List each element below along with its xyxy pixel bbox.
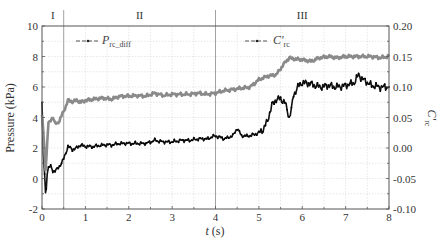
x-tick-label: 1 (83, 211, 89, 223)
y-right-tick-label: -0.05 (393, 173, 416, 185)
y-right-tick-label: -0.10 (393, 203, 416, 215)
y-right-axis-tick-labels: -0.10-0.050.000.050.100.150.20 (393, 20, 416, 215)
y-tick-label: 6 (33, 81, 39, 93)
y-tick-label: 0 (33, 173, 39, 185)
x-axis-title: t (s) (205, 224, 224, 238)
y-right-tick-label: 0.10 (393, 81, 413, 93)
x-tick-label: 6 (300, 211, 306, 223)
y-right-tick-label: 0.15 (393, 51, 413, 63)
x-axis-tick-labels: 012345678 (39, 211, 392, 223)
y-axis-title: Pressure (kPa) (3, 83, 17, 153)
legend-marker-icon (256, 40, 259, 43)
x-tick-label: 2 (126, 211, 132, 223)
y-right-tick-label: 0.00 (393, 142, 413, 154)
legend-marker-icon (87, 40, 90, 43)
y-right-tick-label: 0.05 (393, 112, 413, 124)
y-tick-label: 8 (33, 51, 39, 63)
phase-label: II (136, 9, 144, 21)
phase-label: III (297, 9, 308, 21)
phase-labels: IIIIII (51, 9, 308, 21)
phase-label: I (51, 9, 55, 21)
y-tick-label: -2 (29, 203, 38, 215)
x-tick-label: 5 (256, 211, 262, 223)
y-tick-label: 2 (33, 142, 39, 154)
y-right-axis-title: C'rc (423, 110, 439, 127)
y-right-tick-label: 0.20 (393, 20, 413, 32)
x-tick-label: 4 (213, 211, 219, 223)
x-tick-label: 3 (169, 211, 175, 223)
svg-text:Prc_diff: Prc_diff (101, 33, 131, 49)
y-axis-tick-labels: -20246810 (27, 20, 39, 215)
chart: 012345678 -20246810 -0.10-0.050.000.050.… (0, 0, 440, 241)
x-tick-label: 7 (343, 211, 349, 223)
y-tick-label: 4 (33, 112, 39, 124)
svg-text:C'rc: C'rc (273, 33, 290, 49)
y-tick-label: 10 (27, 20, 39, 32)
legend-entry-p-rc-diff: Prc_diff (76, 33, 131, 49)
x-tick-label: 8 (386, 211, 392, 223)
phase-boundaries (64, 10, 216, 209)
x-tick-label: 0 (39, 211, 45, 223)
